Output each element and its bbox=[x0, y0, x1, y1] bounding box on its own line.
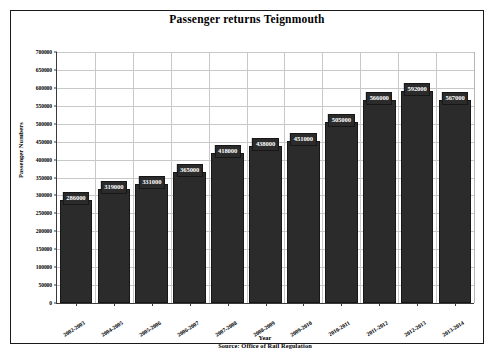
bar[interactable] bbox=[211, 153, 244, 303]
bar-slot: 418000 bbox=[209, 52, 247, 303]
y-tick-label: 350000 bbox=[36, 175, 52, 181]
bar[interactable] bbox=[401, 91, 434, 303]
bar-value-label: 319000 bbox=[101, 181, 127, 194]
y-tick-label: 450000 bbox=[36, 139, 52, 145]
bar[interactable] bbox=[98, 189, 131, 303]
y-tick-label: 500000 bbox=[36, 121, 52, 127]
x-tick-mark bbox=[417, 303, 418, 306]
x-tick-mark bbox=[303, 303, 304, 306]
y-tick-label: 400000 bbox=[36, 157, 52, 163]
source-note: Source: Office of Rail Regulation bbox=[56, 342, 474, 349]
bar-slot: 331000 bbox=[133, 52, 171, 303]
x-tick-mark bbox=[341, 303, 342, 306]
bar-value-label: 331000 bbox=[139, 176, 165, 189]
x-tick-mark bbox=[76, 303, 77, 306]
y-tick-label: 600000 bbox=[36, 85, 52, 91]
y-tick-label: 0 bbox=[49, 300, 52, 306]
y-tick-label: 550000 bbox=[36, 103, 52, 109]
bar-value-label: 365000 bbox=[177, 164, 203, 177]
y-tick-label: 100000 bbox=[36, 264, 52, 270]
chart-title: Passenger returns Teignmouth bbox=[12, 13, 482, 25]
bar[interactable] bbox=[325, 122, 358, 303]
y-tick-label: 50000 bbox=[39, 282, 53, 288]
x-tick-mark bbox=[379, 303, 380, 306]
bar-slot: 451000 bbox=[284, 52, 322, 303]
bar-slot: 567000 bbox=[436, 52, 474, 303]
bar[interactable] bbox=[135, 184, 168, 303]
x-tick-mark bbox=[152, 303, 153, 306]
bar-slot: 319000 bbox=[95, 52, 133, 303]
bar-value-label: 286000 bbox=[63, 192, 89, 205]
bar-slot: 286000 bbox=[57, 52, 95, 303]
y-axis-title: Passenger Numbers bbox=[17, 122, 24, 178]
bar[interactable] bbox=[287, 141, 320, 303]
y-tick-label: 150000 bbox=[36, 246, 52, 252]
x-tick-mark bbox=[455, 303, 456, 306]
bar-series: 2860003190003310003650004180004380004510… bbox=[57, 52, 474, 303]
x-tick-mark bbox=[266, 303, 267, 306]
y-tick-label: 700000 bbox=[36, 49, 52, 55]
x-axis-title: Year bbox=[56, 334, 474, 341]
bar-value-label: 451000 bbox=[290, 133, 316, 146]
bar-value-label: 418000 bbox=[214, 145, 240, 158]
y-tick-label: 300000 bbox=[36, 192, 52, 198]
y-tick-label: 650000 bbox=[36, 67, 52, 73]
x-tick-mark bbox=[114, 303, 115, 306]
bar-value-label: 566000 bbox=[366, 92, 392, 105]
x-tick-mark bbox=[228, 303, 229, 306]
plot-area: 0500001000001500002000002500003000003500… bbox=[56, 52, 474, 304]
bar-value-label: 592000 bbox=[404, 83, 430, 96]
bar-slot: 505000 bbox=[322, 52, 360, 303]
bar-slot: 592000 bbox=[398, 52, 436, 303]
bar[interactable] bbox=[60, 200, 93, 303]
bar[interactable] bbox=[249, 146, 282, 303]
y-tick-label: 200000 bbox=[36, 228, 52, 234]
bar[interactable] bbox=[439, 100, 472, 303]
bar-slot: 365000 bbox=[171, 52, 209, 303]
bar[interactable] bbox=[173, 172, 206, 303]
bar-slot: 438000 bbox=[247, 52, 285, 303]
bar-value-label: 505000 bbox=[328, 114, 354, 127]
gridline-vertical bbox=[474, 52, 475, 303]
x-tick-mark bbox=[190, 303, 191, 306]
bar-slot: 566000 bbox=[360, 52, 398, 303]
bar-value-label: 567000 bbox=[442, 92, 468, 105]
bar[interactable] bbox=[363, 100, 396, 303]
chart-figure: Passenger returns Teignmouth 05000010000… bbox=[0, 0, 496, 360]
bar-value-label: 438000 bbox=[252, 138, 278, 151]
y-tick-label: 250000 bbox=[36, 210, 52, 216]
